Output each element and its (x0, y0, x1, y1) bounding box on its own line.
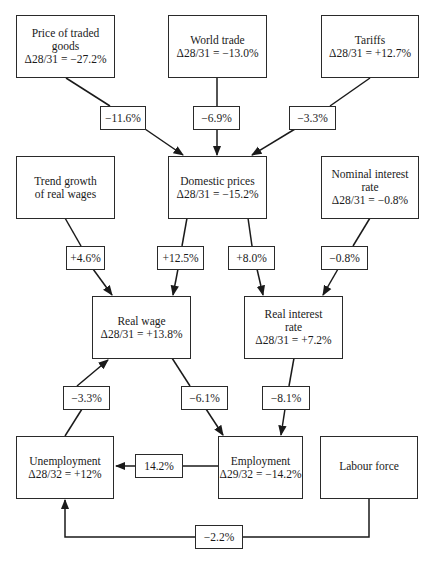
node-title: Nominal interest rate (330, 168, 410, 194)
edge-label-trend-to-realwage: +4.6% (66, 246, 105, 270)
edge-label-realwage-to-unemployment: −3.3% (63, 386, 110, 410)
node-value: Δ29/32 = −14.2% (219, 468, 301, 481)
node-title: Employment (231, 455, 290, 468)
node-value: Δ28/31 = +12.7% (329, 47, 411, 60)
edge-label-nominal-to-realinterest: −0.8% (321, 246, 368, 270)
edge-label-labour-to-unemployment: −2.2% (195, 525, 243, 549)
node-real-wage: Real wage Δ28/31 = +13.8% (92, 296, 191, 359)
node-title: Labour force (339, 460, 399, 473)
node-value: Δ28/31 = +7.2% (255, 334, 331, 347)
node-title: Tariffs (355, 34, 385, 47)
node-title: Trend growth of real wages (31, 175, 101, 201)
edge-label-realwage-to-employment: −6.1% (181, 386, 228, 410)
node-title: Unemployment (29, 455, 101, 468)
edge-label-employment-to-unemployment: 14.2% (135, 454, 183, 478)
node-value: Δ28/31 = −0.8% (332, 194, 408, 207)
node-trend-growth-real-wages: Trend growth of real wages (16, 156, 115, 219)
node-value: Δ28/31 = −15.2% (176, 188, 258, 201)
node-title: Real interest rate (259, 308, 329, 334)
edge-label-world-to-domestic: −6.9% (193, 106, 240, 130)
node-nominal-interest-rate: Nominal interest rate Δ28/31 = −0.8% (321, 156, 419, 219)
edge-label-tariffs-to-domestic: −3.3% (289, 106, 336, 130)
node-world-trade: World trade Δ28/31 = −13.0% (168, 15, 267, 78)
node-value: Δ28/32 = +12% (28, 468, 101, 481)
node-employment: Employment Δ29/32 = −14.2% (218, 436, 303, 499)
node-real-interest-rate: Real interest rate Δ28/31 = +7.2% (244, 296, 343, 359)
edge-label-price-to-domestic: −11.6% (100, 106, 146, 130)
node-domestic-prices: Domestic prices Δ28/31 = −15.2% (168, 156, 267, 219)
node-value: Δ28/31 = −13.0% (176, 47, 258, 60)
node-tariffs: Tariffs Δ28/31 = +12.7% (321, 15, 419, 78)
node-value: Δ28/31 = +13.8% (100, 328, 182, 341)
node-price-traded-goods: Price of traded goods Δ28/31 = −27.2% (16, 15, 115, 78)
edge-label-domestic-to-realwage: +12.5% (157, 246, 204, 270)
node-unemployment: Unemployment Δ28/32 = +12% (16, 436, 114, 499)
node-title: Real wage (117, 315, 165, 328)
edge-label-realinterest-to-employment: −8.1% (262, 386, 310, 410)
node-title: Domestic prices (180, 175, 254, 188)
node-value: Δ28/31 = −27.2% (24, 53, 106, 66)
node-title: World trade (190, 34, 244, 47)
node-title: Price of traded goods (31, 27, 101, 53)
node-labour-force: Labour force (320, 436, 418, 499)
edge-label-domestic-to-realinterest: +8.0% (228, 246, 275, 270)
